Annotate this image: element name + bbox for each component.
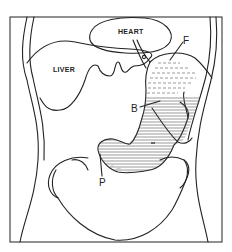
cardia-marker <box>142 55 145 58</box>
liver-outline <box>27 41 152 110</box>
body-label: B <box>131 103 138 114</box>
left-body-wall-outer <box>20 17 38 242</box>
left-body-wall-inner <box>30 17 45 160</box>
stomach-fundus-outline <box>150 53 212 78</box>
fundus-leader-line <box>170 42 183 60</box>
left-colon-fold <box>72 160 88 170</box>
fundus-gas-dashes <box>147 63 196 93</box>
right-body-wall-outer <box>196 17 217 242</box>
left-colon-inner <box>52 170 58 198</box>
right-colon-inner <box>180 160 187 188</box>
liver-label: LIVER <box>53 66 75 73</box>
anatomy-diagram: HEART LIVER <box>0 0 232 252</box>
pylorus-label: P <box>99 177 106 188</box>
heart-label: HEART <box>118 28 144 35</box>
heart-outline <box>90 18 172 54</box>
right-body-wall-inner <box>188 17 211 140</box>
stomach-outline <box>98 62 189 173</box>
colon-outline <box>48 157 188 240</box>
fundus-label: F <box>183 35 189 46</box>
